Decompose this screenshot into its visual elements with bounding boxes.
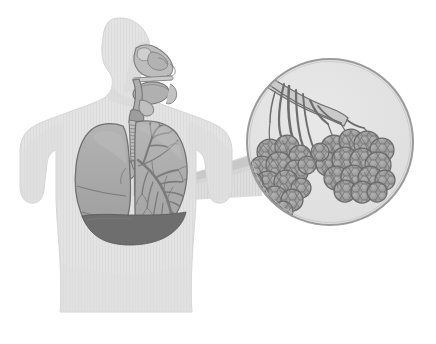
illustration-canvas [0, 0, 436, 344]
respiratory-system-figure: Human Respiratory System with Magnified … [0, 0, 436, 344]
